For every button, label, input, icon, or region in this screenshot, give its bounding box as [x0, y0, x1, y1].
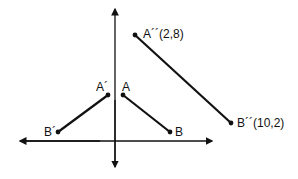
point-a-double-prime: [133, 33, 138, 38]
point-b-double-prime: [229, 121, 234, 126]
segment-ab: [123, 95, 170, 132]
point-b-prime: [56, 130, 61, 135]
point-b: [168, 130, 173, 135]
label-b-double-prime: B´´(10,2): [237, 116, 284, 130]
segment-a-double-prime-b-double-prime: [135, 35, 231, 123]
label-b: B: [175, 125, 183, 139]
segment-a-prime-b-prime: [58, 95, 108, 132]
label-b-prime: B´: [44, 125, 56, 139]
label-a: A: [122, 80, 130, 94]
coordinate-plane-diagram: A´ A B´ B A´´(2,8) B´´(10,2): [0, 0, 298, 179]
label-a-prime: A´: [96, 80, 108, 94]
label-a-double-prime: A´´(2,8): [143, 27, 184, 41]
